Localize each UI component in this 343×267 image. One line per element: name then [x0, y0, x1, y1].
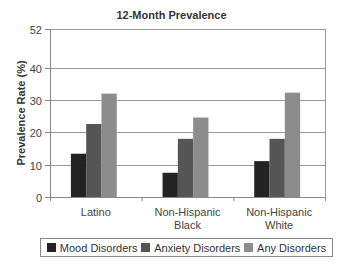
legend-swatch [47, 243, 56, 252]
y-tick-label: 0 [36, 192, 42, 204]
bar-any-disorders [101, 94, 116, 197]
plot-area: 01020304052LatinoNon-HispanicBlackNon-Hi… [0, 0, 343, 237]
bar-any-disorders [193, 118, 208, 197]
x-category-label: White [265, 219, 293, 231]
y-tick-label: 10 [30, 160, 42, 172]
bar-anxiety-disorders [178, 139, 193, 197]
bar-mood-disorders [254, 161, 269, 197]
bar-mood-disorders [71, 154, 86, 197]
legend-label: Any Disorders [257, 242, 326, 254]
legend-item: Anxiety Disorders [141, 242, 240, 254]
bar-anxiety-disorders [86, 124, 101, 197]
bar-any-disorders [285, 93, 300, 197]
legend-item: Any Disorders [244, 242, 326, 254]
x-category-label: Non-Hispanic [246, 206, 313, 218]
bar-mood-disorders [163, 173, 178, 197]
legend-swatch [244, 243, 253, 252]
y-tick-label: 30 [30, 95, 42, 107]
legend-label: Anxiety Disorders [154, 242, 240, 254]
legend-swatch [141, 243, 150, 252]
legend: Mood DisordersAnxiety DisordersAny Disor… [40, 238, 333, 257]
y-tick-label: 40 [30, 63, 42, 75]
y-tick-label: 52 [30, 24, 42, 36]
x-category-label: Latino [81, 206, 111, 218]
y-tick-label: 20 [30, 127, 42, 139]
x-category-label: Non-Hispanic [154, 206, 221, 218]
legend-item: Mood Disorders [47, 242, 138, 254]
legend-label: Mood Disorders [60, 242, 138, 254]
bar-anxiety-disorders [270, 139, 285, 197]
x-category-label: Black [174, 219, 201, 231]
